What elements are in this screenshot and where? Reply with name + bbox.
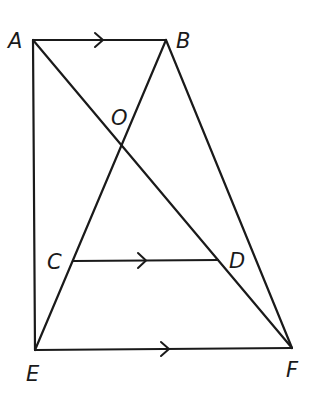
point-label-e: E [26, 362, 40, 386]
segment-ef [35, 348, 292, 350]
point-label-b: B [176, 29, 190, 53]
point-label-d: D [229, 249, 245, 273]
point-label-o: O [111, 106, 128, 130]
segment-af [33, 40, 292, 348]
point-label-f: F [286, 358, 299, 382]
point-label-c: C [47, 250, 62, 274]
segment-ae [33, 40, 35, 350]
point-label-a: A [6, 29, 22, 53]
diagram-canvas: A B O C D E F [0, 0, 317, 395]
segment-be [35, 40, 166, 350]
segment-bf [166, 40, 292, 348]
geometry-diagram: A B O C D E F [0, 0, 317, 395]
